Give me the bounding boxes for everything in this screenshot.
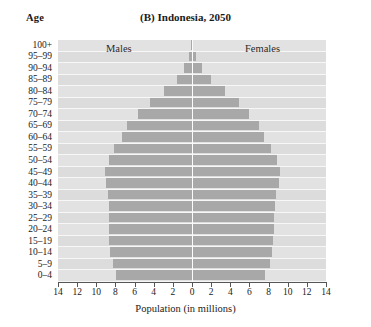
- bar-female: [192, 178, 279, 188]
- age-tick-label: 60–64: [28, 133, 52, 143]
- x-axis-tick-label: 10: [86, 287, 106, 297]
- bar-male: [113, 259, 192, 269]
- x-axis-tick-label: 12: [67, 287, 87, 297]
- bar-female: [192, 86, 225, 96]
- plot-area: Males Females: [58, 40, 326, 282]
- age-tick-label: 40–44: [28, 179, 52, 189]
- bar-male: [109, 236, 192, 246]
- bar-female: [192, 63, 202, 73]
- bar-female: [192, 144, 271, 154]
- center-axis-line: [192, 40, 193, 282]
- bar-male: [164, 86, 192, 96]
- x-axis-tick-label: 6: [239, 287, 259, 297]
- age-tick-label: 10–14: [28, 248, 52, 258]
- bar-male: [122, 132, 192, 142]
- bar-male: [114, 144, 192, 154]
- bar-female: [192, 224, 274, 234]
- age-tick-label: 0–4: [38, 271, 52, 281]
- bar-female: [192, 121, 259, 131]
- bar-female: [192, 132, 264, 142]
- series-label-females: Females: [245, 43, 280, 54]
- bar-male: [177, 75, 192, 85]
- bar-female: [192, 259, 270, 269]
- bar-female: [192, 190, 276, 200]
- bar-female: [192, 270, 265, 280]
- x-axis-tick-label: 8: [105, 287, 125, 297]
- age-tick-label: 25–29: [28, 214, 52, 224]
- age-tick-label: 100+: [32, 41, 52, 51]
- x-axis-tick-label: 12: [297, 287, 317, 297]
- age-tick-label: 45–49: [28, 168, 52, 178]
- age-tick-label: 15–19: [28, 237, 52, 247]
- bar-male: [138, 109, 192, 119]
- bar-female: [192, 75, 211, 85]
- x-axis-title: Population (in millions): [0, 303, 371, 314]
- age-tick-label: 35–39: [28, 191, 52, 201]
- chart-title: (B) Indonesia, 2050: [0, 11, 371, 23]
- age-tick-label: 75–79: [28, 98, 52, 108]
- age-tick-label: 30–34: [28, 202, 52, 212]
- series-label-males: Males: [106, 43, 132, 54]
- bar-male: [108, 190, 192, 200]
- bar-female: [192, 213, 274, 223]
- age-tick-label: 20–24: [28, 225, 52, 235]
- x-axis-tick-label: 4: [144, 287, 164, 297]
- age-tick-label: 55–59: [28, 144, 52, 154]
- age-tick-label: 80–84: [28, 87, 52, 97]
- age-tick-label: 70–74: [28, 110, 52, 120]
- bar-male: [105, 167, 192, 177]
- age-tick-label: 90–94: [28, 64, 52, 74]
- bar-female: [192, 236, 273, 246]
- bar-male: [109, 213, 192, 223]
- x-axis-tick-label: 14: [48, 287, 68, 297]
- age-tick-label: 65–69: [28, 121, 52, 131]
- bar-male: [110, 247, 192, 257]
- x-axis-tick-label: 4: [220, 287, 240, 297]
- bar-female: [192, 52, 196, 62]
- bar-female: [192, 167, 280, 177]
- bar-female: [192, 109, 249, 119]
- x-axis-tick-label: 14: [316, 287, 336, 297]
- bar-female: [192, 155, 277, 165]
- age-tick-labels: 100+95–9990–9485–8980–8475–7970–7465–696…: [0, 40, 55, 282]
- x-axis-tick-label: 2: [163, 287, 183, 297]
- age-tick-label: 5–9: [38, 260, 52, 270]
- panel-letter: (B): [140, 11, 155, 23]
- bar-male: [127, 121, 192, 131]
- bar-male: [150, 98, 192, 108]
- bar-male: [109, 201, 192, 211]
- bar-female: [192, 247, 272, 257]
- bar-male: [116, 270, 192, 280]
- age-tick-label: 50–54: [28, 156, 52, 166]
- bar-male: [106, 178, 192, 188]
- x-axis-tick-label: 8: [259, 287, 279, 297]
- bar-male: [109, 224, 192, 234]
- bar-male: [109, 155, 192, 165]
- age-tick-label: 95–99: [28, 52, 52, 62]
- x-axis-tick-label: 10: [278, 287, 298, 297]
- age-tick-label: 85–89: [28, 75, 52, 85]
- bar-female: [192, 98, 239, 108]
- x-axis-tick-label: 2: [201, 287, 221, 297]
- x-axis-tick-label: 6: [125, 287, 145, 297]
- bar-female: [192, 201, 275, 211]
- chart-title-main: Indonesia, 2050: [158, 11, 231, 23]
- x-axis-tick-label: 0: [182, 287, 202, 297]
